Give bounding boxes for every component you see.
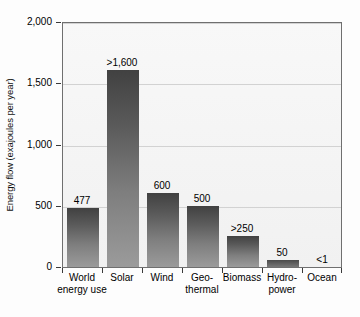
bar-solar bbox=[107, 70, 139, 267]
y-tick-label-1500: 1,500 bbox=[27, 78, 52, 88]
value-label-geothermal: 500 bbox=[182, 193, 222, 204]
y-tick bbox=[56, 145, 61, 146]
bar-biomass bbox=[227, 236, 259, 267]
value-label-solar: >1,600 bbox=[97, 57, 147, 68]
value-label-world-energy-use: 477 bbox=[62, 195, 102, 206]
y-tick-label-500: 500 bbox=[35, 201, 52, 211]
y-tick-label-0: 0 bbox=[46, 262, 52, 272]
y-tick bbox=[56, 206, 61, 207]
gridline bbox=[63, 84, 341, 85]
value-label-ocean: <1 bbox=[302, 254, 342, 265]
gridline bbox=[63, 23, 341, 24]
y-axis-title: Energy flow (exajoules per year) bbox=[2, 22, 18, 268]
value-label-biomass: >250 bbox=[219, 223, 265, 234]
bar-geothermal bbox=[187, 206, 219, 267]
y-tick-label-2000: 2,000 bbox=[27, 17, 52, 27]
y-tick-label-1000: 1,000 bbox=[27, 140, 52, 150]
y-tick bbox=[56, 83, 61, 84]
value-label-hydropower: 50 bbox=[262, 247, 302, 258]
gridline bbox=[63, 146, 341, 147]
y-tick bbox=[56, 22, 61, 23]
x-category-label-ocean: Ocean bbox=[298, 272, 346, 284]
bar-wind bbox=[147, 193, 179, 267]
value-label-wind: 600 bbox=[142, 180, 182, 191]
y-tick bbox=[56, 267, 61, 268]
chart-figure: Energy flow (exajoules per year) 2,000 1… bbox=[0, 0, 360, 317]
bar-hydropower bbox=[267, 260, 299, 267]
bar-world-energy-use bbox=[67, 208, 99, 267]
